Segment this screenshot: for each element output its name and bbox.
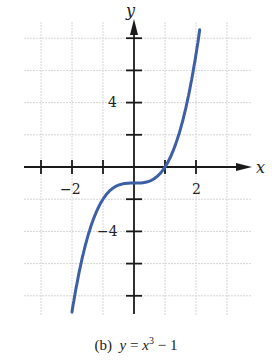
caption-base: x <box>142 337 149 353</box>
cubic-function-plot: y x −2 2 4 −4 <box>0 0 272 335</box>
caption-prefix: (b) <box>95 337 113 353</box>
figure-caption: (b) y = x3 − 1 <box>0 335 272 354</box>
axes <box>24 19 252 314</box>
grid-lines <box>24 22 252 315</box>
x-axis-label: x <box>256 158 265 177</box>
y-tick-label-neg4: −4 <box>97 223 118 239</box>
caption-rest: − 1 <box>154 337 177 353</box>
x-tick-label-neg2: −2 <box>60 181 81 197</box>
x-tick-label-2: 2 <box>192 181 201 197</box>
curve-y-equals-x-cubed-minus-1 <box>72 30 200 312</box>
y-tick-label-4: 4 <box>108 94 117 110</box>
y-axis-label: y <box>125 1 136 20</box>
caption-equals: = <box>126 337 142 353</box>
